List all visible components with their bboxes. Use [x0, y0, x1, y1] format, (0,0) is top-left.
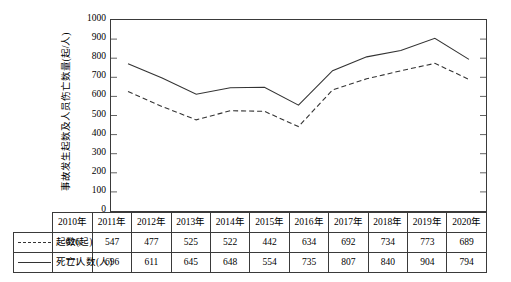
- table-cell-value: 477: [132, 233, 171, 253]
- table-cell-value: 735: [289, 253, 328, 273]
- legend-label: 死亡人数(人): [56, 256, 112, 269]
- solid-line-icon: [18, 262, 51, 264]
- column-header-year: 2012年: [132, 213, 171, 233]
- y-tick-label: 500: [78, 110, 106, 120]
- table-cell-value: 773: [408, 233, 447, 253]
- table-cell-value: 525: [171, 233, 210, 253]
- table-header-row: 2010年2011年2012年2013年2014年2015年2016年2017年…: [14, 213, 487, 233]
- y-tick-label: 700: [78, 71, 106, 81]
- table-cell-value: 794: [447, 253, 487, 273]
- table-cell-value: 689: [447, 233, 487, 253]
- series-line-siwang: [128, 38, 469, 105]
- data-table: 2010年2011年2012年2013年2014年2015年2016年2017年…: [13, 212, 487, 273]
- dashed-line-icon: [18, 242, 51, 244]
- y-tick-label: 400: [78, 129, 106, 139]
- table-cell-value: 648: [211, 253, 250, 273]
- table-corner-cell: [14, 213, 53, 233]
- y-tick-label: 300: [78, 148, 106, 158]
- table-cell-value: 611: [132, 253, 171, 273]
- column-header-year: 2014年: [211, 213, 250, 233]
- y-tick-label: 100: [78, 186, 106, 196]
- table-cell-value: 547: [92, 233, 131, 253]
- legend-cell: 起数(起): [14, 233, 53, 253]
- column-header-year: 2015年: [250, 213, 289, 233]
- table-cell-value: 634: [289, 233, 328, 253]
- table-cell-value: 442: [250, 233, 289, 253]
- y-tick-label: 1000: [78, 14, 106, 24]
- column-header-year: 2018年: [368, 213, 407, 233]
- column-header-year: 2020年: [447, 213, 487, 233]
- chart-figure: 事故发生起数及人员伤亡数量(起/人) 100090080070060050040…: [0, 0, 511, 282]
- table-cell-value: 734: [368, 233, 407, 253]
- table-cell-value: 522: [211, 233, 250, 253]
- series-line-qishu: [128, 63, 469, 126]
- plot-lines: [111, 20, 486, 211]
- plot-area: [110, 19, 487, 212]
- column-header-year: 2017年: [329, 213, 368, 233]
- column-header-year: 2011年: [92, 213, 131, 233]
- table-row: 死亡人数(人)771696611645648554735807840904794: [14, 253, 487, 273]
- column-header-year: 2013年: [171, 213, 210, 233]
- table-row: 起数(起)626547477525522442634692734773689: [14, 233, 487, 253]
- legend-cell: 死亡人数(人): [14, 253, 53, 273]
- y-tick-label: 600: [78, 90, 106, 100]
- y-tick-label: 200: [78, 167, 106, 177]
- column-header-year: 2016年: [289, 213, 328, 233]
- y-axis-tick-labels: 10009008007006005004003002001000: [78, 14, 106, 212]
- table-cell-value: 904: [408, 253, 447, 273]
- table-cell-value: 692: [329, 233, 368, 253]
- table-cell-value: 645: [171, 253, 210, 273]
- column-header-year: 2019年: [408, 213, 447, 233]
- y-axis-title: 事故发生起数及人员伤亡数量(起/人): [58, 14, 74, 210]
- table-cell-value: 840: [368, 253, 407, 273]
- table-cell-value: 807: [329, 253, 368, 273]
- y-tick-label: 900: [78, 33, 106, 43]
- y-tick-label: 800: [78, 52, 106, 62]
- table-cell-value: 554: [250, 253, 289, 273]
- column-header-year: 2010年: [53, 213, 92, 233]
